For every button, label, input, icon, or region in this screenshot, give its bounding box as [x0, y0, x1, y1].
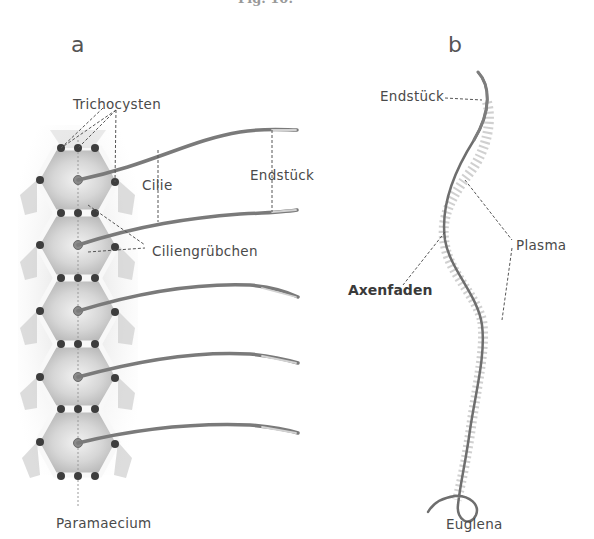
label-trichocysten: Trichocysten [73, 96, 161, 112]
panel-b-letter: b [448, 32, 462, 57]
label-endstueck-b: Endstück [380, 88, 444, 104]
label-endstueck-a: Endstück [250, 167, 314, 183]
figure-drawing [0, 0, 594, 539]
label-plasma: Plasma [516, 237, 566, 253]
panel-a-letter: a [71, 32, 84, 57]
figure: Fig. 10. [0, 0, 594, 539]
label-paramaecium: Paramaecium [56, 515, 152, 531]
label-axenfaden: Axenfaden [348, 282, 432, 298]
label-euglena: Euglena [446, 516, 503, 532]
label-ciliengruebchen: Ciliengrübchen [152, 243, 258, 259]
label-cilie: Cilie [142, 177, 172, 193]
